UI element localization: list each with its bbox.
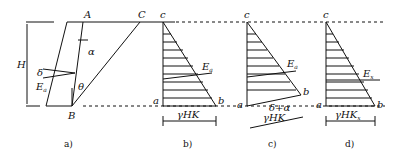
label-a-c: a: [237, 99, 243, 110]
label-C: C: [138, 9, 146, 20]
caption-a: a): [64, 139, 73, 149]
label-Ea: Ea: [35, 81, 47, 93]
label-c-b: c: [160, 9, 166, 20]
caption-c: c): [268, 139, 277, 149]
label-Ex-d: Ex: [362, 68, 374, 80]
panel-a-wall: [26, 22, 175, 106]
label-delta: δ: [37, 67, 43, 78]
label-width-b: γHK: [177, 109, 200, 120]
label-b-d: b: [377, 99, 383, 110]
label-B: B: [67, 110, 75, 121]
label-c-c: c: [244, 9, 250, 20]
label-alpha: α: [88, 46, 95, 57]
caption-b: b): [183, 139, 192, 149]
label-A: A: [83, 9, 91, 20]
label-width-d: γHKx: [335, 109, 361, 121]
caption-d: d): [345, 139, 354, 149]
label-c-d: c: [323, 9, 329, 20]
label-width-c: γHK: [263, 112, 286, 123]
label-Ea-c: Ea: [286, 58, 298, 70]
label-b-b: b: [218, 95, 224, 106]
label-a-b: a: [153, 95, 159, 106]
label-a-d: a: [316, 99, 322, 110]
label-theta: θ: [78, 81, 84, 92]
label-Ea-b: Ea: [201, 61, 213, 73]
earth-pressure-diagram: A C B H α θ δ Ea a) c a b Ea γHK b) c a …: [0, 0, 394, 159]
label-b-c: b: [303, 86, 309, 97]
label-H: H: [16, 59, 26, 70]
